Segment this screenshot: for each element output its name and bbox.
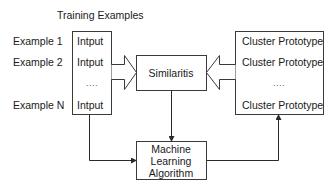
input-item: Intput <box>77 57 103 68</box>
arrow-algorithm-to-prototype <box>207 115 279 161</box>
example-label: Example N <box>13 100 64 111</box>
input-item: Intput <box>77 100 103 111</box>
prototype-ellipsis: .... <box>273 79 285 88</box>
prototype-item: Cluster Prototype <box>242 57 323 68</box>
input-ellipsis: .... <box>86 79 98 88</box>
example-label: Example 1 <box>13 36 63 47</box>
similarity-label: Similaritis <box>149 68 194 79</box>
algorithm-label-line: Machine <box>151 143 191 156</box>
prototype-item: Cluster Prototype <box>242 36 323 47</box>
algorithm-label-line: Learning <box>151 155 192 168</box>
input-item: Intput <box>77 36 103 47</box>
prototype-item: Cluster Prototype <box>242 100 323 111</box>
diagram-title: Training Examples <box>57 10 144 21</box>
hollow-arrow-prototype-to-similarity <box>207 56 236 90</box>
example-label: Example 2 <box>13 57 63 68</box>
diagram-canvas: Training Examples Example 1 Example 2 Ex… <box>0 0 334 190</box>
arrow-input-to-algorithm <box>90 115 137 161</box>
hollow-arrow-input-to-similarity <box>112 56 137 90</box>
algorithm-label-line: Algorithm <box>149 167 193 180</box>
